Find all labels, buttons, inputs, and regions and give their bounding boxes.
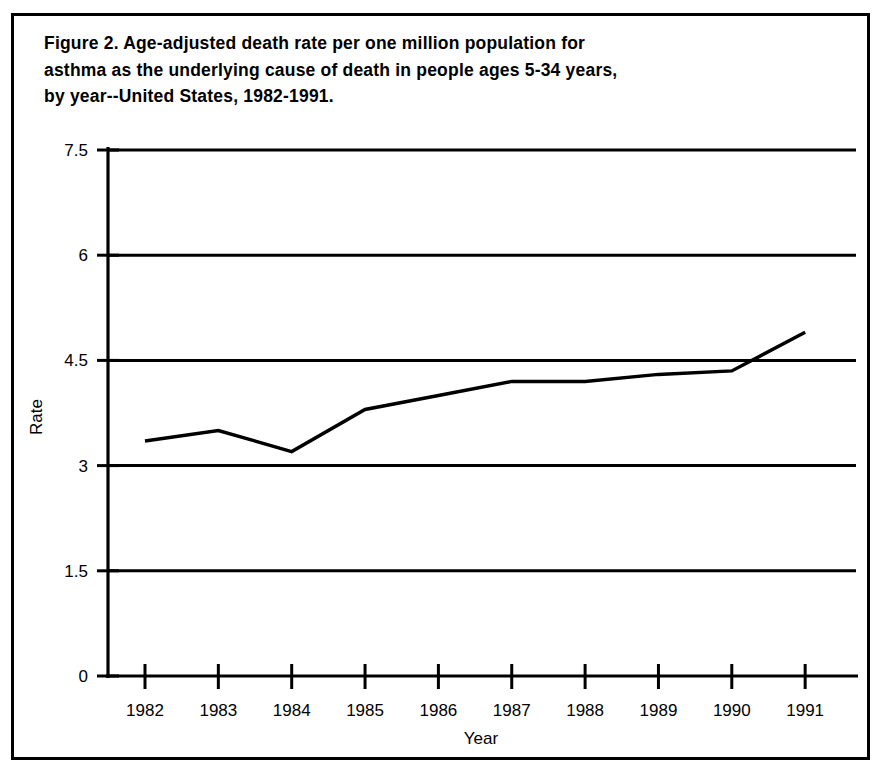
y-tick-labels-group: 01.534.567.5 [64, 141, 88, 686]
y-axis-title: Rate [27, 399, 46, 435]
figure-root: Figure 2. Age-adjusted death rate per on… [0, 0, 890, 778]
x-tick-label-1989: 1989 [640, 701, 678, 720]
line-chart: 01.534.567.5 198219831984198519861987198… [0, 0, 890, 778]
x-tick-label-1990: 1990 [713, 701, 751, 720]
x-tick-label-1988: 1988 [566, 701, 604, 720]
x-tick-label-1987: 1987 [493, 701, 531, 720]
y-tick-label-1.5: 1.5 [64, 562, 88, 581]
y-tick-label-6: 6 [79, 246, 88, 265]
x-tick-label-1991: 1991 [786, 701, 824, 720]
gridlines-group [108, 150, 856, 571]
y-tick-label-3: 3 [79, 457, 88, 476]
y-tick-label-7.5: 7.5 [64, 141, 88, 160]
x-tick-label-1986: 1986 [419, 701, 457, 720]
x-tick-label-1983: 1983 [199, 701, 237, 720]
x-tick-label-1984: 1984 [273, 701, 311, 720]
x-axis-title: Year [464, 729, 499, 748]
x-tick-labels-group: 1982198319841985198619871988198919901991 [126, 701, 824, 720]
y-tick-label-0: 0 [79, 667, 88, 686]
x-tick-label-1985: 1985 [346, 701, 384, 720]
x-tick-label-1982: 1982 [126, 701, 164, 720]
y-tick-label-4.5: 4.5 [64, 351, 88, 370]
data-series-line [145, 332, 805, 451]
